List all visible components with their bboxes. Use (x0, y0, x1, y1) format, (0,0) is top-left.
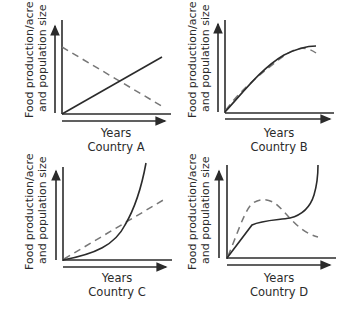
y-axis-label-line1: Food production/acre (23, 153, 36, 270)
y-axis-label-line1: Food production/acre (186, 1, 199, 118)
panel-caption: Country B (250, 140, 307, 154)
solid-line (227, 165, 318, 258)
dashed-line (226, 48, 316, 110)
y-axis-label-line2: and population size (36, 156, 49, 264)
panel-caption: Country A (87, 140, 144, 154)
solid-line (63, 163, 146, 260)
panel-caption: Country D (250, 285, 308, 299)
dashed-line (62, 47, 165, 108)
dashed-line (64, 199, 165, 259)
x-axis-label: Years (100, 126, 131, 140)
panel-country-c: Food production/acre and population size… (23, 153, 172, 299)
y-axis-label-line2: and population size (199, 4, 212, 112)
panel-country-a: Food production/acre and population size… (23, 1, 171, 154)
panel-country-b: Food production/acre and population size… (186, 1, 334, 154)
four-country-graphs: Food production/acre and population size… (0, 0, 352, 317)
y-axis-label-line2: and population size (199, 156, 212, 264)
solid-line (62, 57, 162, 114)
x-axis-label: Years (263, 271, 294, 285)
y-axis-label-line2: and population size (36, 4, 49, 112)
x-axis-label: Years (263, 126, 294, 140)
y-axis-label-line1: Food production/acre (23, 1, 36, 118)
solid-line (225, 46, 316, 112)
y-axis-label-line1: Food production/acre (186, 153, 199, 270)
panel-caption: Country C (88, 285, 145, 299)
x-axis-label: Years (101, 271, 132, 285)
dashed-line (228, 200, 318, 256)
panel-country-d: Food production/acre and population size… (186, 153, 336, 299)
